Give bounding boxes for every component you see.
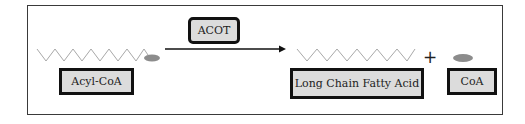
product-fatty-acid-box: Long Chain Fatty Acid (290, 68, 424, 99)
acyl-chain-icon (37, 49, 148, 61)
substrate-acyl-coa-box: Acyl-CoA (59, 68, 134, 95)
plus-operator: + (423, 47, 437, 67)
enzyme-acot-box: ACOT (188, 17, 240, 44)
enzyme-label: ACOT (198, 24, 231, 37)
coa-group-icon (144, 55, 160, 62)
product-coa-label: CoA (461, 75, 484, 88)
arrow-head-icon (279, 46, 286, 53)
free-coa-icon (453, 54, 473, 62)
product-fatty-acid-label: Long Chain Fatty Acid (295, 77, 419, 90)
diagram-graphics: + (0, 0, 525, 124)
substrate-label: Acyl-CoA (71, 75, 122, 88)
fatty-acid-chain-icon (297, 49, 415, 61)
product-coa-box: CoA (447, 68, 497, 95)
